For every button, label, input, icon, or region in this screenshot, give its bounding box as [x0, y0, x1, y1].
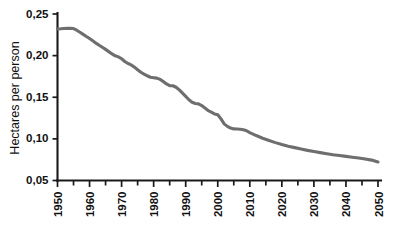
x-axis-tick-label: 2030: [308, 192, 320, 218]
chart-container: Hectares per person 0,250,200,150,100,05…: [0, 0, 396, 229]
x-axis-tick-label: 2040: [340, 192, 352, 218]
x-axis-tick-label: 2010: [244, 191, 256, 217]
y-axis-title-group: Hectares per person: [8, 41, 22, 154]
y-axis-title: Hectares per person: [8, 41, 22, 154]
x-axis-tick-label: 1960: [84, 192, 96, 218]
x-axis-tick-label: 1950: [52, 192, 64, 218]
x-axis-tick-label: 1990: [180, 192, 192, 218]
axis-ticks: [53, 14, 379, 187]
x-axis-tick-label: 1970: [116, 192, 128, 218]
x-axis-tick-label: 2020: [276, 192, 288, 218]
y-axis-tick-label: 0,25: [26, 8, 49, 20]
y-axis-tick-label: 0,05: [26, 174, 49, 186]
x-axis-tick-label: 1980: [148, 192, 160, 218]
x-axis-tick-labels: 1950196019701980199020002010202020302040…: [52, 191, 385, 217]
y-axis-tick-labels: 0,250,200,150,100,05: [26, 8, 49, 187]
y-axis-tick-label: 0,20: [26, 49, 48, 61]
line-chart: Hectares per person 0,250,200,150,100,05…: [0, 0, 396, 229]
y-axis-tick-label: 0,10: [26, 132, 48, 144]
data-series-line: [58, 28, 379, 162]
x-axis-tick-label: 2050: [373, 192, 385, 218]
x-axis-tick-label: 2000: [212, 192, 224, 218]
y-axis-tick-label: 0,15: [26, 91, 49, 103]
